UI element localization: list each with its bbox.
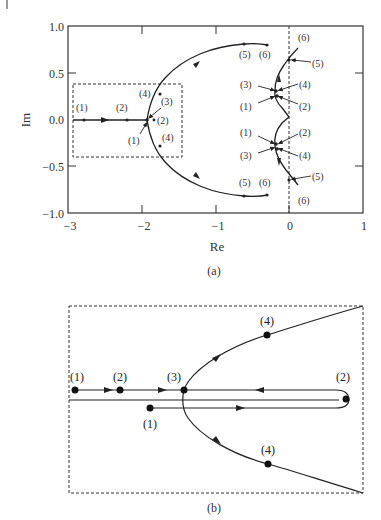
plot-a: 1.0 0.5 0.0 −0.5 −1.0 −3 −2 −1 0 1 Re Im <box>18 20 367 278</box>
ytick-label: −1.0 <box>42 207 64 221</box>
annotation-label: (3) <box>240 150 252 162</box>
direction-arrow <box>212 354 221 362</box>
figure-canvas: 1.0 0.5 0.0 −0.5 −1.0 −3 −2 −1 0 1 Re Im <box>0 0 381 520</box>
plot-b: (1) (2) (3) (2) (1) (4) (4) (b) <box>69 306 363 515</box>
annotation-label: (4) <box>162 132 174 144</box>
ytick-label: 0.0 <box>49 113 64 127</box>
annotation-label: (4) <box>261 443 275 457</box>
locus-point <box>274 142 278 146</box>
locus-point <box>275 147 279 151</box>
locus-point <box>287 178 290 181</box>
locus-point <box>265 43 268 46</box>
direction-arrow <box>236 405 245 411</box>
locus-point <box>125 118 128 121</box>
pointer-arrow <box>293 176 311 179</box>
annotation-label: (5) <box>239 177 251 189</box>
annotation-label: (4) <box>299 79 311 91</box>
xtick-label: 0 <box>287 219 293 233</box>
annotation-label: (3) <box>167 370 181 384</box>
locus-point <box>158 144 161 147</box>
annotation-label: (4) <box>260 314 274 328</box>
annotation-label: (4) <box>299 150 311 162</box>
annotation-label: (6) <box>259 177 271 189</box>
annotation-label: (2) <box>299 101 311 113</box>
annotation-label: (1) <box>70 370 84 384</box>
pointer-arrow <box>258 97 273 103</box>
caption-b: (b) <box>207 501 221 515</box>
annotation-label: (1) <box>143 417 157 431</box>
direction-arrow <box>104 387 113 393</box>
locus-point <box>275 94 279 98</box>
locus-point <box>153 119 156 122</box>
y-axis-label: Im <box>18 113 33 127</box>
annotation-label: (2) <box>113 370 127 384</box>
upper-inner-branch <box>275 48 298 117</box>
locus-point <box>145 118 149 122</box>
annotation-label: (6) <box>259 49 271 61</box>
annotation-label: (1) <box>76 102 88 114</box>
pointer-arrow <box>293 60 311 62</box>
locus-point-2-right <box>343 396 350 403</box>
direction-arrow <box>193 61 200 68</box>
locus-point-3 <box>181 387 188 394</box>
locus-point <box>274 89 278 93</box>
locus-point-4-upper <box>264 332 271 339</box>
locus-point-1-lower <box>147 405 154 412</box>
locus-point <box>82 118 85 121</box>
direction-arrow <box>255 387 264 393</box>
annotation-label: (1) <box>240 127 252 139</box>
xtick-label: −1 <box>212 219 225 233</box>
locus-point <box>265 193 268 196</box>
annotation-label: (1) <box>128 135 140 147</box>
pointer-arrow <box>258 136 273 143</box>
annotation-label: (2) <box>299 127 311 139</box>
annotation-label: (5) <box>239 49 251 61</box>
annotation-label: (5) <box>312 171 324 183</box>
xtick-label: −3 <box>64 219 77 233</box>
annotation-label: (3) <box>240 79 252 91</box>
annotation-label: (4) <box>139 88 151 100</box>
annotation-label: (3) <box>161 96 173 108</box>
pointer-arrow <box>280 149 298 156</box>
xtick-label: 1 <box>361 219 367 233</box>
direction-arrow <box>158 387 167 393</box>
hairpin-loop <box>150 390 349 408</box>
locus-point <box>242 194 245 197</box>
annotation-label: (5) <box>312 58 324 70</box>
caption-a: (a) <box>207 264 220 278</box>
annotation-label: (6) <box>298 195 310 207</box>
pointer-arrow <box>258 148 273 153</box>
pointer-arrow <box>258 86 273 90</box>
locus-point <box>287 58 290 61</box>
x-axis-label: Re <box>210 239 225 254</box>
annotation-label: (2) <box>116 102 128 114</box>
annotation-label: (1) <box>240 101 252 113</box>
ytick-label: −0.5 <box>42 160 64 174</box>
annotation-label: (6) <box>298 32 310 44</box>
locus-point-1 <box>72 387 79 394</box>
pointer-arrow <box>140 124 146 134</box>
pointer-arrow <box>280 84 298 90</box>
locus-point-2 <box>117 387 124 394</box>
annotation-label: (2) <box>157 115 169 127</box>
direction-arrow <box>101 117 109 123</box>
xtick-label: −2 <box>138 219 151 233</box>
locus-point-4-lower <box>265 461 272 468</box>
locus-point <box>242 42 245 45</box>
annotation-label: (2) <box>336 370 350 384</box>
ytick-label: 0.5 <box>49 67 64 81</box>
direction-arrow <box>193 172 200 179</box>
ytick-label: 1.0 <box>49 20 64 34</box>
